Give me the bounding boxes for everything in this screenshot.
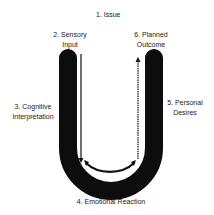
label-personal-line1: 5. Personal xyxy=(165,98,205,108)
label-personal-desires: 5. Personal Desires xyxy=(165,98,205,118)
label-cognitive-interpretation: 3. Cognitive Interpretation xyxy=(8,102,58,122)
up-arrow-head xyxy=(136,57,141,62)
label-issue: 1. Issue xyxy=(96,10,121,20)
label-sensory-input: 2. Sensory Input xyxy=(50,30,90,50)
label-cognitive-line1: 3. Cognitive xyxy=(8,102,58,112)
inner-arc-arrow xyxy=(86,163,134,172)
label-personal-line2: Desires xyxy=(165,108,205,118)
label-sensory-line2: Input xyxy=(50,40,90,50)
label-sensory-line1: 2. Sensory xyxy=(50,30,90,40)
label-emotional-reaction: 4. Emotional Reaction xyxy=(74,197,148,207)
label-planned-line1: 6. Planned xyxy=(129,30,173,40)
label-planned-outcome: 6. Planned Outcome xyxy=(129,30,173,50)
label-cognitive-line2: Interpretation xyxy=(8,112,58,122)
label-planned-line2: Outcome xyxy=(129,40,173,50)
